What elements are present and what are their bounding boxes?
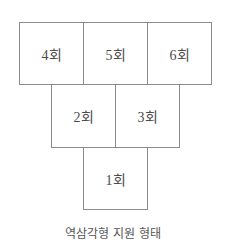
box-label: 1회 <box>106 169 126 189</box>
box-label: 3회 <box>138 106 158 126</box>
box-2: 2회 <box>51 84 116 148</box>
box-3: 3회 <box>115 84 180 148</box>
box-1: 1회 <box>83 147 148 210</box>
box-label: 5회 <box>106 44 126 64</box>
box-6: 6회 <box>147 22 212 85</box>
box-label: 6회 <box>170 44 190 64</box>
box-label: 4회 <box>42 44 62 64</box>
box-5: 5회 <box>83 22 148 85</box>
box-label: 2회 <box>74 106 94 126</box>
box-4: 4회 <box>19 22 84 85</box>
diagram-caption: 역삼각형 지원 형태 <box>0 224 226 241</box>
